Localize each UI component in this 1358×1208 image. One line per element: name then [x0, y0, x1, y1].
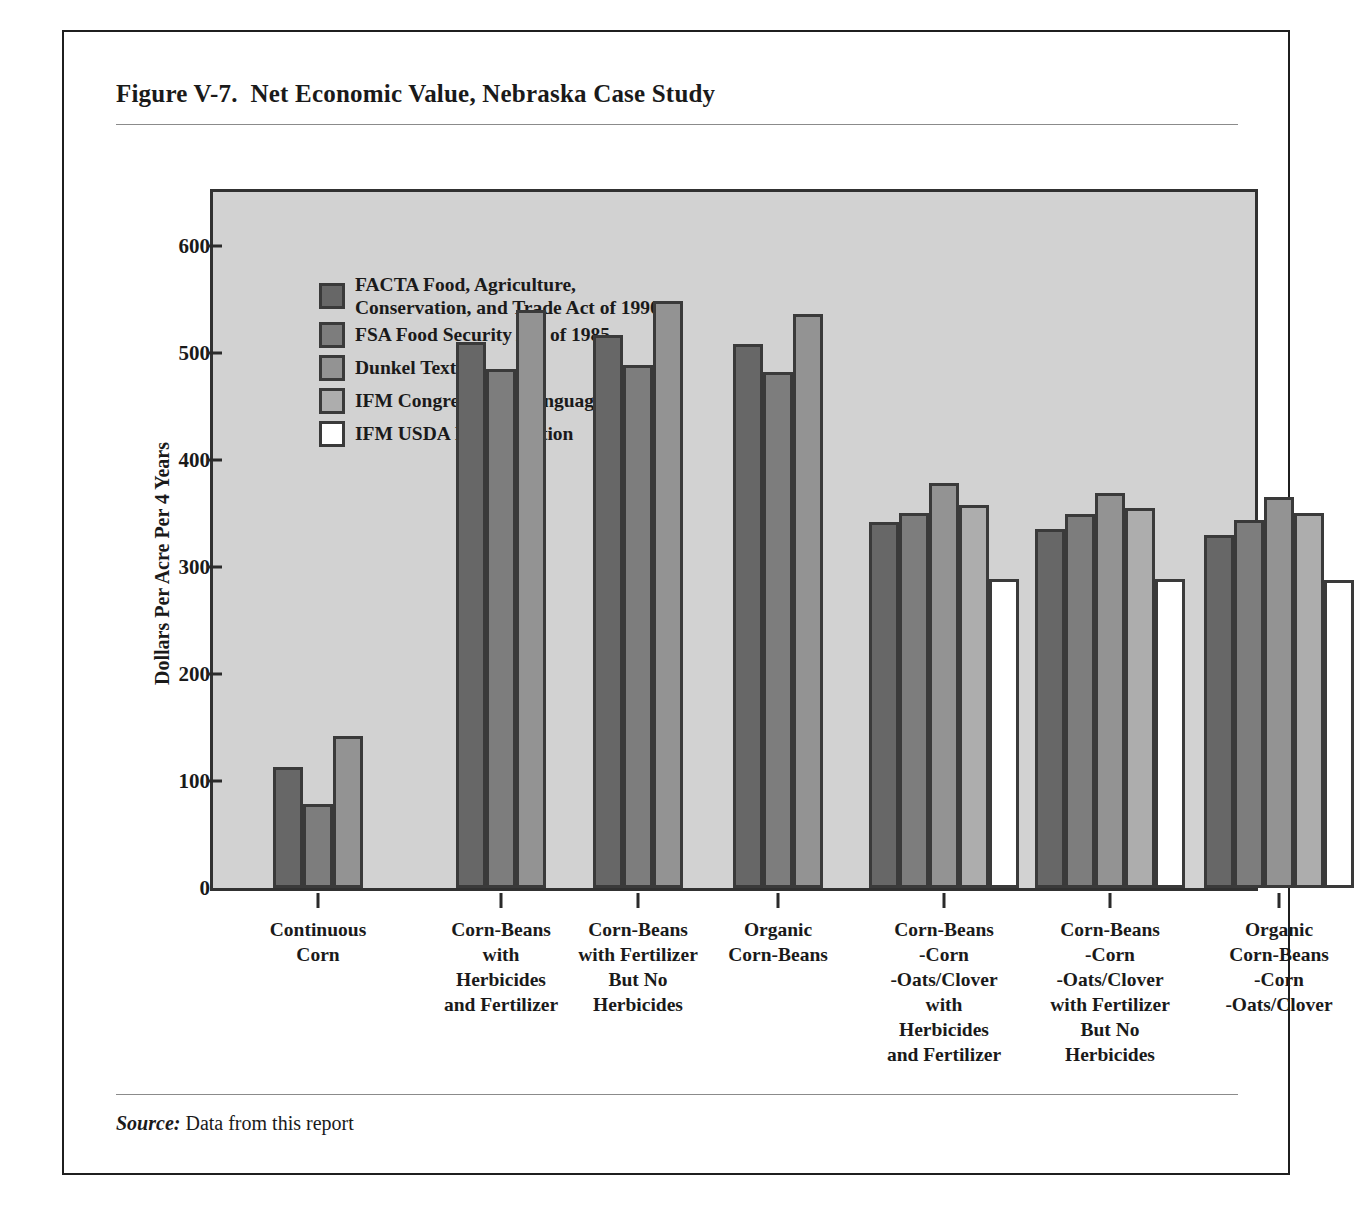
- x-tick-label: Organic Corn-Beans -Corn -Oats/Clover: [1174, 917, 1358, 1017]
- y-tick-label: 300: [154, 554, 210, 579]
- bar: [989, 579, 1019, 888]
- bar: [486, 369, 516, 888]
- y-tick-label: 200: [154, 661, 210, 686]
- x-tick-label: Continuous Corn: [213, 917, 423, 967]
- bar: [333, 736, 363, 888]
- source-label: Source:: [116, 1112, 180, 1134]
- x-tick-mark: [943, 893, 946, 908]
- bar: [733, 344, 763, 888]
- chart-legend: FACTA Food, Agriculture, Conservation, a…: [319, 272, 779, 454]
- x-tick-mark: [500, 893, 503, 908]
- bar: [1234, 520, 1264, 888]
- bar: [1264, 497, 1294, 888]
- bar: [593, 335, 623, 888]
- x-tick-mark: [637, 893, 640, 908]
- bar: [899, 513, 929, 888]
- source-text: Data from this report: [180, 1112, 353, 1134]
- bar: [303, 804, 333, 888]
- bar: [929, 483, 959, 888]
- bar: [1204, 535, 1234, 888]
- legend-swatch-icon: [319, 388, 345, 414]
- bar: [869, 522, 899, 888]
- bar: [456, 342, 486, 888]
- bar: [1125, 508, 1155, 888]
- x-tick-mark: [1109, 893, 1112, 908]
- legend-item: FSA Food Security Act of 1985: [319, 322, 779, 352]
- legend-label: FACTA Food, Agriculture, Conservation, a…: [355, 272, 660, 319]
- bar: [1294, 513, 1324, 888]
- bar: [1324, 580, 1354, 888]
- legend-item: IFM USDA Interpretation: [319, 421, 779, 451]
- y-tick-label: 400: [154, 447, 210, 472]
- x-tick-mark: [777, 893, 780, 908]
- legend-swatch-icon: [319, 421, 345, 447]
- legend-label: Dunkel Text: [355, 355, 456, 379]
- bar: [1095, 493, 1125, 888]
- bar: [1035, 529, 1065, 888]
- figure-frame: Figure V-7. Net Economic Value, Nebraska…: [62, 30, 1290, 1175]
- y-tick-label: 500: [154, 340, 210, 365]
- bar: [959, 505, 989, 888]
- y-axis: 0100200300400500600: [124, 189, 210, 891]
- legend-swatch-icon: [319, 283, 345, 309]
- y-tick-label: 600: [154, 233, 210, 258]
- legend-swatch-icon: [319, 322, 345, 348]
- y-tick-label: 0: [154, 876, 210, 901]
- bar: [273, 767, 303, 888]
- x-tick-mark: [317, 893, 320, 908]
- y-tick-label: 100: [154, 768, 210, 793]
- legend-swatch-icon: [319, 355, 345, 381]
- bar: [1065, 514, 1095, 888]
- legend-item: Dunkel Text: [319, 355, 779, 385]
- bar: [793, 314, 823, 888]
- source-divider: [116, 1094, 1238, 1095]
- bar: [653, 301, 683, 888]
- bar: [763, 372, 793, 888]
- x-axis: Continuous CornCorn-Beans with Herbicide…: [210, 891, 1258, 1141]
- chart-canvas: Dollars Per Acre Per 4 Years 01002003004…: [64, 32, 1292, 1177]
- legend-item: FACTA Food, Agriculture, Conservation, a…: [319, 272, 779, 319]
- bar: [1155, 579, 1185, 888]
- legend-item: IFM Congressional Language: [319, 388, 779, 418]
- bar: [516, 310, 546, 888]
- bar: [623, 365, 653, 888]
- source-note: Source: Data from this report: [116, 1112, 354, 1135]
- x-tick-mark: [1278, 893, 1281, 908]
